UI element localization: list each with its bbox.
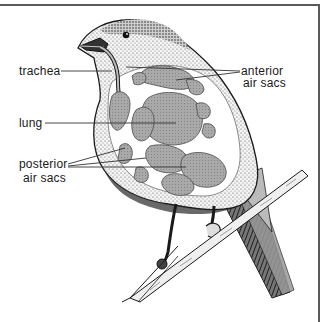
label-posterior-line1: posterior	[19, 158, 68, 170]
eye	[123, 32, 130, 39]
label-trachea: trachea	[19, 65, 60, 77]
label-anterior-line2: air sacs	[243, 77, 286, 89]
label-posterior-line2: air sacs	[23, 172, 66, 184]
label-lung: lung	[19, 117, 43, 129]
